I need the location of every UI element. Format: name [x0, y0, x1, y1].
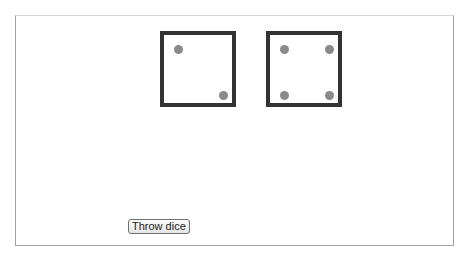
die-2 — [266, 31, 342, 107]
die-pip — [174, 45, 183, 54]
die-pip — [325, 45, 334, 54]
throw-dice-button[interactable]: Throw dice — [128, 219, 190, 234]
die-pip — [280, 91, 289, 100]
die-pip — [280, 45, 289, 54]
die-pip — [325, 91, 334, 100]
die-pip — [219, 91, 228, 100]
die-1 — [160, 31, 236, 107]
